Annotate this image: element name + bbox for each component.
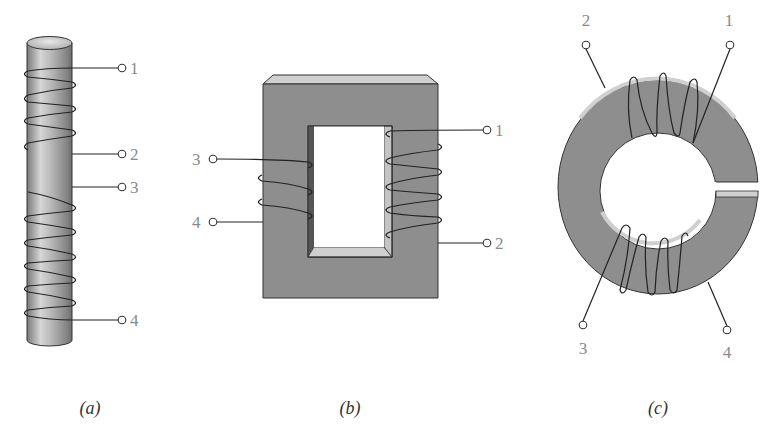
terminal-a4 — [118, 316, 126, 324]
terminal-label-a3: 3 — [130, 178, 139, 197]
terminal-b3 — [209, 155, 217, 163]
figure-canvas: 1 2 3 4 (a) 1 — [0, 0, 768, 442]
panel-b-rectangular-core: 1 2 3 4 (b) — [192, 75, 504, 419]
terminal-b4 — [209, 218, 217, 226]
terminal-label-b2: 2 — [495, 234, 504, 253]
terminal-label-b4: 4 — [192, 213, 201, 232]
rectangular-core — [263, 75, 438, 298]
terminal-label-c4: 4 — [723, 343, 732, 362]
caption-c: (c) — [648, 398, 668, 419]
caption-b: (b) — [340, 398, 361, 419]
terminal-label-a1: 1 — [130, 59, 139, 78]
rod-core — [27, 37, 72, 347]
terminal-a3 — [118, 183, 126, 191]
terminal-label-c1: 1 — [725, 11, 734, 30]
terminal-b1 — [483, 126, 491, 134]
terminal-b2 — [483, 239, 491, 247]
terminal-label-b1: 1 — [495, 121, 504, 140]
terminal-c1 — [726, 41, 734, 49]
terminal-label-a4: 4 — [130, 311, 139, 330]
terminal-c4 — [723, 326, 731, 334]
terminal-label-b3: 3 — [192, 150, 201, 169]
terminal-c3 — [579, 321, 587, 329]
panel-c-toroid-core: 1 2 3 4 (c) — [558, 11, 758, 419]
terminal-label-a2: 2 — [130, 145, 139, 164]
toroid-gap-face — [716, 191, 758, 197]
terminal-label-c3: 3 — [579, 339, 588, 358]
terminal-c2 — [582, 41, 590, 49]
panel-a-rod-core: 1 2 3 4 (a) — [25, 37, 140, 420]
terminal-a1 — [118, 64, 126, 72]
caption-a: (a) — [80, 398, 101, 419]
terminal-a2 — [118, 150, 126, 158]
terminal-label-c2: 2 — [582, 11, 591, 30]
